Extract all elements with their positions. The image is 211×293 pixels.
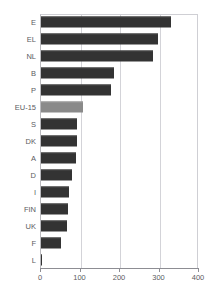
x-tick-label-100: 100: [73, 273, 86, 282]
category-label-i: I: [34, 187, 36, 196]
bar-row: A: [0, 149, 211, 166]
chart-title: [0, 0, 211, 5]
bar-row: DK: [0, 133, 211, 150]
x-tick-label-200: 200: [113, 273, 126, 282]
tickmark-400: [198, 268, 199, 272]
category-label-e: E: [31, 18, 36, 27]
bar-row: NL: [0, 48, 211, 65]
category-label-el: EL: [27, 35, 36, 44]
bar-dk: [41, 135, 77, 146]
bar-row: FIN: [0, 200, 211, 217]
bar-nl: [41, 51, 153, 62]
bar-el: [41, 34, 158, 45]
bar-row: F: [0, 234, 211, 251]
category-label-f: F: [31, 238, 36, 247]
category-label-uk: UK: [26, 221, 36, 230]
bar-eu-15: [41, 102, 83, 113]
category-label-fin: FIN: [24, 204, 36, 213]
bar-p: [41, 85, 111, 96]
bar-rows: EELNLBPEU-15SDKADIFINUKFL: [0, 14, 211, 268]
category-label-a: A: [31, 153, 36, 162]
category-label-nl: NL: [26, 52, 36, 61]
x-tick-label-400: 400: [192, 273, 205, 282]
x-tick-label-300: 300: [152, 273, 165, 282]
category-label-dk: DK: [26, 136, 36, 145]
bar-row: P: [0, 82, 211, 99]
tickmark-200: [119, 268, 120, 272]
bar-row: I: [0, 183, 211, 200]
category-label-d: D: [31, 170, 36, 179]
tickmark-0: [40, 268, 41, 272]
bar-fin: [41, 203, 68, 214]
bar-row: B: [0, 65, 211, 82]
bar-row: D: [0, 166, 211, 183]
tickmark-300: [159, 268, 160, 272]
category-label-l: L: [32, 255, 36, 264]
bar-s: [41, 119, 77, 130]
bar-row: UK: [0, 217, 211, 234]
bar-uk: [41, 220, 67, 231]
bar-l: [41, 254, 42, 265]
bar-chart: EELNLBPEU-15SDKADIFINUKFL 0100200300400: [0, 0, 211, 293]
category-label-s: S: [31, 120, 36, 129]
bar-i: [41, 186, 69, 197]
bar-row: EL: [0, 31, 211, 48]
bar-row: S: [0, 116, 211, 133]
bar-row: E: [0, 14, 211, 31]
x-tick-label-0: 0: [38, 273, 42, 282]
bar-row: EU-15: [0, 99, 211, 116]
category-label-b: B: [31, 69, 36, 78]
bar-e: [41, 17, 171, 28]
bar-row: L: [0, 251, 211, 268]
bar-a: [41, 152, 76, 163]
bar-f: [41, 237, 61, 248]
category-label-eu-15: EU-15: [15, 103, 36, 112]
category-label-p: P: [31, 86, 36, 95]
bar-b: [41, 68, 114, 79]
bar-d: [41, 169, 72, 180]
tickmark-100: [80, 268, 81, 272]
